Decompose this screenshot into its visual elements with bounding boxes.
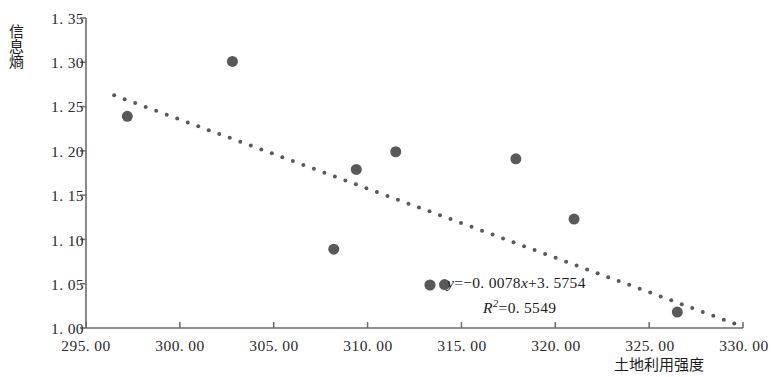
scatter-point — [569, 214, 580, 225]
scatter-point — [122, 111, 133, 122]
x-tick-label: 300. 00 — [140, 337, 220, 355]
scatter-point — [328, 244, 339, 255]
y-tick-label: 1. 10 — [22, 232, 84, 250]
y-axis-title: 信息熵 — [2, 24, 24, 104]
y-tick-label: 1. 30 — [22, 54, 84, 72]
x-axis-ticks — [86, 322, 743, 328]
y-tick-label: 1. 05 — [22, 276, 84, 294]
scatter-point — [351, 164, 362, 175]
scatter-point — [227, 56, 238, 67]
scatter-point — [390, 146, 401, 157]
x-tick-label: 320. 00 — [516, 337, 596, 355]
equation-inline-marker — [424, 279, 435, 290]
axis-spines — [86, 18, 743, 328]
x-tick-label: 325. 00 — [610, 337, 690, 355]
regression-annotation: y=−0. 0078x+3. 5754 R2=0. 5549 — [447, 272, 586, 318]
y-tick-label: 1. 35 — [22, 10, 84, 28]
regression-equation: y=−0. 0078x+3. 5754 — [447, 272, 586, 293]
equation-intercept: +3. 5754 — [528, 274, 586, 291]
scatter-markers — [122, 56, 683, 318]
x-tick-label: 310. 00 — [328, 337, 408, 355]
r-squared-number: =0. 5549 — [499, 299, 557, 316]
x-tick-label: 315. 00 — [422, 337, 502, 355]
x-axis-title: 土地利用强度 — [614, 353, 704, 374]
r-squared-symbol: R — [483, 299, 493, 316]
x-tick-label: 330. 00 — [704, 337, 771, 355]
plot-area — [0, 0, 771, 377]
trendline — [112, 93, 736, 325]
y-tick-label: 1. 25 — [22, 98, 84, 116]
scatter-point — [672, 307, 683, 318]
y-tick-label: 1. 20 — [22, 143, 84, 161]
equation-coefficient: =−0. 0078 — [454, 274, 521, 291]
x-tick-label: 305. 00 — [234, 337, 314, 355]
equation-x-symbol: x — [521, 274, 528, 291]
y-tick-label: 1. 00 — [22, 320, 84, 338]
scatter-chart-figure: 信息熵 土地利用强度 1. 35 1. 30 1. 25 1. 20 1. 15… — [0, 0, 771, 377]
r-squared-value: R2=0. 5549 — [447, 293, 586, 318]
x-tick-label: 295. 00 — [46, 337, 126, 355]
scatter-point — [510, 153, 521, 164]
y-tick-label: 1. 15 — [22, 187, 84, 205]
